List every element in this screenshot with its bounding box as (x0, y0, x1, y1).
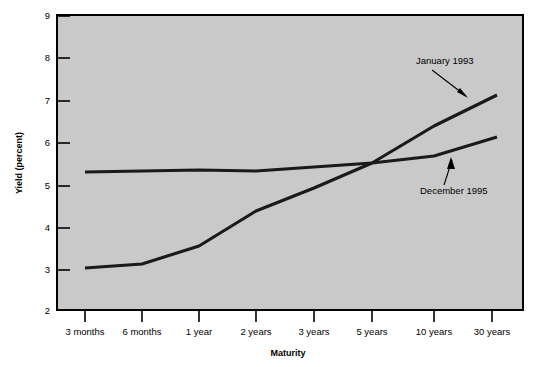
y-tick-label: 3 (45, 264, 50, 275)
x-tick-label: 1 year (186, 326, 212, 337)
y-axis-tick-labels: 9 8 7 6 5 4 3 2 (45, 10, 50, 316)
x-tick-label: 3 years (298, 326, 329, 337)
y-tick-label: 9 (45, 10, 50, 21)
x-tick-label: 10 years (416, 326, 453, 337)
yield-curve-chart: 9 8 7 6 5 4 3 2 Yield (percent) 3 months… (0, 0, 535, 367)
y-tick-label: 6 (45, 137, 50, 148)
y-axis-title: Yield (percent) (14, 132, 24, 194)
x-tick-label: 30 years (474, 326, 511, 337)
x-axis-ticks (85, 311, 492, 322)
annotation-label-december-1995: December 1995 (420, 185, 488, 196)
x-tick-label: 6 months (122, 326, 161, 337)
y-tick-label: 4 (45, 222, 50, 233)
y-tick-label: 5 (45, 180, 50, 191)
x-tick-label: 5 years (356, 326, 387, 337)
annotation-label-january-1993: January 1993 (416, 55, 474, 66)
x-tick-label: 2 years (240, 326, 271, 337)
x-tick-label: 3 months (65, 326, 104, 337)
x-axis-tick-labels: 3 months 6 months 1 year 2 years 3 years… (65, 326, 510, 337)
y-tick-label: 7 (45, 95, 50, 106)
y-tick-label: 2 (45, 305, 50, 316)
x-axis-title: Maturity (270, 348, 305, 358)
y-tick-label: 8 (45, 52, 50, 63)
